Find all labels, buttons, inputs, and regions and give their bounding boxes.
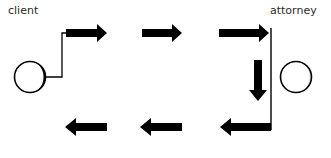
client-node [15,62,46,93]
arrow-right-3 [219,24,269,42]
arrow-left-2 [140,118,182,136]
client-connector-line [46,33,66,77]
process-diagram [0,0,331,158]
arrow-left-1 [220,118,271,136]
arrow-down [249,60,267,101]
arrow-right-1 [66,24,107,42]
attorney-node [281,62,312,93]
arrow-right-2 [142,24,182,42]
arrow-left-3 [65,118,107,136]
